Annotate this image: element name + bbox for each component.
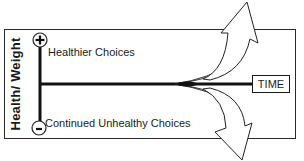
junction-point <box>177 81 197 86</box>
time-label-box: TIME <box>252 75 290 93</box>
plus-circle-icon <box>33 33 47 47</box>
health-weight-diagram: Health/ Weight Healthier Choices Continu… <box>0 0 304 161</box>
up-arrow-icon <box>203 2 258 80</box>
y-axis-label: Health/ Weight <box>4 29 26 139</box>
unhealthy-choices-label: Continued Unhealthy Choices <box>45 117 191 129</box>
time-label: TIME <box>258 78 284 90</box>
healthier-choices-label: Healthier Choices <box>48 46 135 58</box>
minus-circle-icon <box>32 121 46 135</box>
down-arrow-icon <box>203 88 252 160</box>
